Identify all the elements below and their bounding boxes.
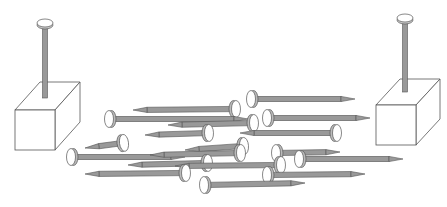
- nail-shaft: [110, 116, 234, 121]
- standing-nail-shaft: [43, 27, 48, 98]
- nail-point: [291, 180, 305, 185]
- nail-shaft: [252, 96, 341, 101]
- nail-point: [168, 122, 182, 128]
- nails-illustration: [0, 0, 447, 207]
- nail-head: [231, 100, 240, 117]
- nail-head: [199, 176, 208, 193]
- nail-point: [351, 171, 365, 176]
- right-block: [376, 14, 440, 145]
- nail-head: [263, 110, 272, 127]
- left-block: [15, 19, 80, 150]
- nail-shaft: [99, 170, 185, 176]
- loose-nail: [133, 100, 241, 118]
- loose-nail: [145, 124, 214, 143]
- nail-shaft: [159, 130, 208, 137]
- nail-head: [204, 124, 214, 141]
- nail-shaft: [164, 150, 240, 157]
- loose-nail: [84, 134, 130, 157]
- nail-head: [295, 151, 304, 168]
- nail-shaft: [300, 156, 389, 161]
- nail-point: [145, 132, 159, 138]
- nail-head: [249, 114, 258, 131]
- standing-nail-blocks: [15, 14, 440, 150]
- nail-shaft: [268, 172, 351, 178]
- nail-head: [333, 125, 342, 142]
- nail-head: [276, 156, 285, 173]
- nail-point: [389, 156, 403, 161]
- nail-head: [181, 164, 190, 181]
- nail-shaft: [205, 181, 291, 188]
- block-front-face: [376, 105, 416, 145]
- standing-nail-head: [397, 14, 413, 22]
- nail-point: [85, 171, 99, 176]
- nail-point: [356, 115, 370, 120]
- nail-head: [105, 111, 114, 128]
- loose-nail-pile: [67, 91, 404, 194]
- loose-nail: [85, 164, 191, 182]
- nail-head: [236, 144, 245, 161]
- nail-shaft: [268, 115, 356, 120]
- loose-nail: [247, 91, 356, 108]
- nail-point: [133, 107, 147, 112]
- block-front-face: [15, 110, 55, 150]
- nail-shaft: [254, 130, 336, 135]
- nail-head: [67, 149, 76, 166]
- nail-point: [128, 162, 142, 168]
- nail-point: [326, 149, 340, 154]
- loose-nail: [263, 110, 371, 127]
- standing-nail-shaft: [403, 22, 408, 92]
- nail-point: [240, 130, 254, 135]
- nail-point: [341, 96, 355, 101]
- nail-head: [247, 91, 256, 108]
- nail-point: [85, 144, 100, 151]
- standing-nail-head: [37, 19, 53, 27]
- nail-shaft: [147, 106, 235, 112]
